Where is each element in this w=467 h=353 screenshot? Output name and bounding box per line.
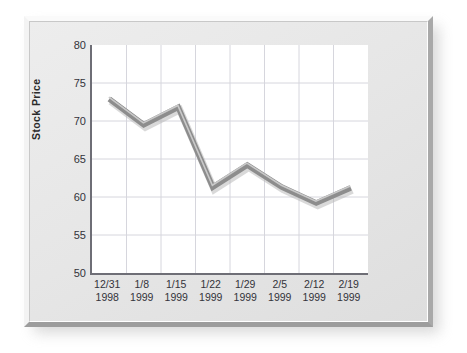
x-tick-year: 1999 xyxy=(165,291,188,304)
x-tick-label: 2/51999 xyxy=(268,278,291,304)
y-tick-label: 80 xyxy=(74,39,86,51)
x-tick-year: 1999 xyxy=(234,291,257,304)
x-tick-year: 1999 xyxy=(268,291,291,304)
y-tick-label: 75 xyxy=(74,77,86,89)
y-axis-title: Stock Price xyxy=(30,20,42,140)
chart-figure: Stock Price 80757065605550 12/3119981/81… xyxy=(0,0,467,353)
y-tick-label: 55 xyxy=(74,229,86,241)
y-tick-label: 70 xyxy=(74,115,86,127)
y-tick-label: 65 xyxy=(74,153,86,165)
x-tick-date: 1/15 xyxy=(165,278,188,291)
x-axis-tick-labels: 12/3119981/819991/1519991/2219991/291999… xyxy=(90,278,366,312)
x-tick-date: 2/12 xyxy=(303,278,326,291)
x-tick-date: 1/29 xyxy=(234,278,257,291)
x-tick-label: 1/221999 xyxy=(199,278,222,304)
x-tick-date: 1/22 xyxy=(199,278,222,291)
x-tick-year: 1999 xyxy=(303,291,326,304)
x-tick-label: 12/311998 xyxy=(94,278,120,304)
x-tick-year: 1999 xyxy=(337,291,360,304)
x-tick-label: 1/151999 xyxy=(165,278,188,304)
line-chart-svg xyxy=(92,45,368,273)
x-tick-date: 12/31 xyxy=(94,278,120,291)
x-tick-label: 1/291999 xyxy=(234,278,257,304)
x-tick-date: 1/8 xyxy=(130,278,153,291)
x-tick-date: 2/19 xyxy=(337,278,360,291)
x-tick-label: 2/191999 xyxy=(337,278,360,304)
x-tick-year: 1999 xyxy=(130,291,153,304)
y-axis-tick-labels: 80757065605550 xyxy=(58,38,86,274)
y-tick-label: 50 xyxy=(74,267,86,279)
x-tick-label: 1/81999 xyxy=(130,278,153,304)
x-tick-label: 2/121999 xyxy=(303,278,326,304)
y-tick-label: 60 xyxy=(74,191,86,203)
x-tick-date: 2/5 xyxy=(268,278,291,291)
plot-area xyxy=(90,45,368,275)
data-line-shadow xyxy=(111,101,353,205)
x-tick-year: 1999 xyxy=(199,291,222,304)
x-tick-year: 1998 xyxy=(94,291,120,304)
